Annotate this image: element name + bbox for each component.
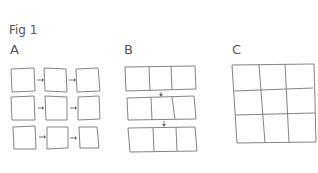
figure-diagram [0, 0, 318, 173]
panel-b-strips [125, 66, 197, 152]
panel-c-grid [232, 64, 316, 143]
arrow-icon [37, 78, 77, 140]
panel-a-grid [11, 68, 100, 149]
